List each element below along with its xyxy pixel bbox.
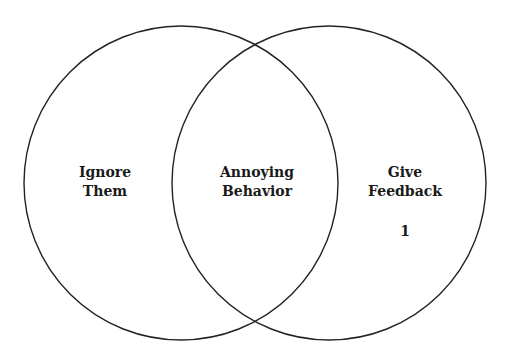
- right-count: 1: [400, 222, 410, 241]
- label-right-line1: Give: [368, 163, 442, 182]
- label-ignore-them: Ignore Them: [79, 163, 131, 201]
- label-give-feedback: Give Feedback: [368, 163, 442, 201]
- label-left-line1: Ignore: [79, 163, 131, 182]
- label-right-line2: Feedback: [368, 182, 442, 201]
- label-center-line2: Behavior: [220, 182, 294, 201]
- label-center-line1: Annoying: [220, 163, 294, 182]
- label-annoying-behavior: Annoying Behavior: [220, 163, 294, 201]
- label-left-line2: Them: [79, 182, 131, 201]
